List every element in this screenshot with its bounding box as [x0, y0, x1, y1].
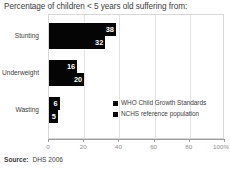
axis-tick-label-40: 40: [115, 143, 122, 150]
bar-underweight-who: 16: [49, 60, 77, 73]
category-label-stunting: Stunting: [0, 32, 39, 40]
category-label-wasting: Wasting: [0, 106, 39, 114]
axis-tick-mark: [224, 139, 225, 142]
bar-stunting-nchs: 32: [49, 36, 105, 49]
bar-group-underweight: Underweight 16 20: [49, 60, 223, 86]
axis-tick-mark: [189, 139, 190, 142]
bar-underweight-nchs: 20: [49, 73, 84, 86]
source-label: Source:: [4, 156, 29, 163]
bar-value-wasting-who: 6: [53, 100, 57, 108]
bar-value-underweight-who: 16: [67, 63, 75, 71]
source-line: Source:DHS 2006: [4, 156, 63, 164]
chart-legend: WHO Child Growth Standards NCHS referenc…: [113, 98, 206, 120]
bar-stunting-who: 38: [49, 23, 116, 36]
legend-label-who: WHO Child Growth Standards: [121, 99, 206, 107]
category-label-underweight: Underweight: [0, 69, 39, 77]
bar-value-stunting-nchs: 32: [95, 39, 103, 47]
bar-value-stunting-who: 38: [106, 26, 114, 34]
axis-tick-label-0: 0: [46, 143, 49, 150]
legend-item-who: WHO Child Growth Standards: [113, 98, 206, 108]
legend-item-nchs: NCHS reference population: [113, 109, 206, 119]
axis-tick-label-20: 20: [80, 143, 87, 150]
bar-wasting-nchs: 5: [49, 110, 58, 123]
chart-container: Percentage of children < 5 years old suf…: [0, 0, 230, 171]
bar-value-wasting-nchs: 5: [52, 113, 56, 121]
axis-tick-label-80: 80: [185, 143, 192, 150]
legend-swatch-icon: [113, 101, 118, 106]
source-value: DHS 2006: [33, 156, 63, 163]
x-axis-line: [48, 139, 224, 140]
bar-wasting-who: 6: [49, 97, 60, 110]
axis-tick-label-60: 60: [150, 143, 157, 150]
chart-title: Percentage of children < 5 years old suf…: [4, 2, 228, 12]
axis-tick-mark: [118, 139, 119, 142]
axis-tick-label-100: 100%: [213, 143, 229, 150]
plot-area: Stunting 38 32 Underweight 16 20 Wasting…: [48, 14, 224, 139]
bar-value-underweight-nchs: 20: [74, 76, 82, 84]
legend-swatch-icon: [113, 112, 118, 117]
legend-label-nchs: NCHS reference population: [121, 110, 199, 118]
axis-tick-mark: [48, 139, 49, 142]
axis-tick-mark: [154, 139, 155, 142]
axis-tick-mark: [83, 139, 84, 142]
bar-group-stunting: Stunting 38 32: [49, 23, 223, 49]
